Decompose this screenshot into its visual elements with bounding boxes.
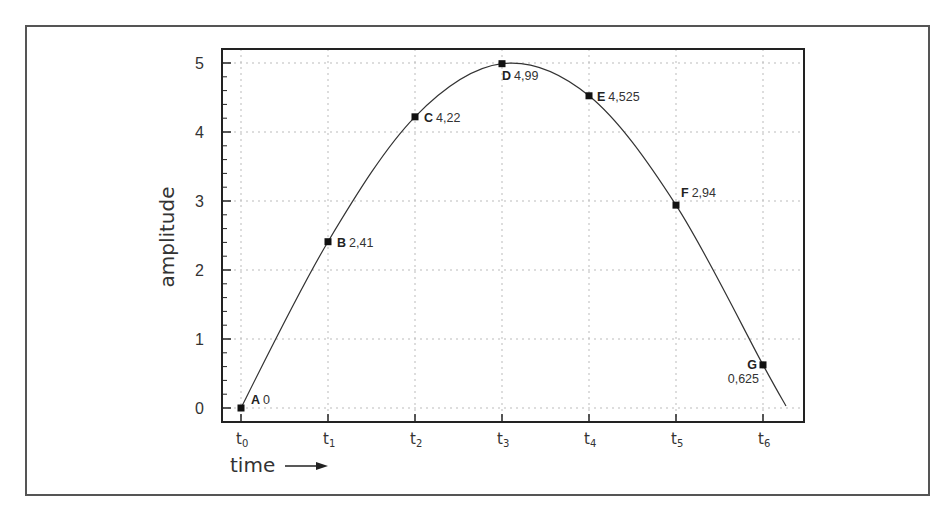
- y-axis-ticks: 012345: [195, 55, 231, 422]
- data-point-f: F2,94: [673, 186, 717, 209]
- data-point-g: G0,625: [728, 358, 767, 386]
- point-marker: [412, 113, 419, 120]
- point-label: E4,525: [597, 90, 640, 104]
- y-tick-label: 1: [195, 331, 204, 348]
- y-tick-label: 4: [195, 124, 204, 141]
- point-marker: [760, 361, 767, 368]
- plot-area-border: [222, 49, 804, 422]
- point-label: G: [747, 358, 757, 372]
- point-value: 0,625: [728, 372, 759, 386]
- point-label: B2,41: [337, 236, 373, 250]
- point-label: C4,22: [424, 111, 460, 125]
- data-point-b: B2,41: [325, 236, 374, 250]
- x-tick-label: t6: [758, 430, 770, 449]
- x-tick-label: t0: [236, 430, 248, 449]
- point-label: D4,99: [502, 69, 538, 83]
- x-tick-label: t2: [410, 430, 422, 449]
- y-axis-title: amplitude: [155, 186, 179, 287]
- point-label: A0: [251, 393, 270, 407]
- data-point-e: E4,525: [586, 90, 640, 104]
- grid-lines: [222, 49, 804, 422]
- point-label: F2,94: [681, 186, 716, 200]
- x-axis-title: time: [230, 453, 275, 477]
- y-tick-label: 2: [195, 262, 204, 279]
- x-tick-label: t4: [584, 430, 596, 449]
- point-marker: [238, 405, 245, 412]
- y-tick-label: 3: [195, 193, 204, 210]
- x-axis-ticks: t0t1t2t3t4t5t6: [236, 414, 770, 449]
- y-tick-label: 0: [195, 400, 204, 417]
- x-tick-label: t5: [671, 430, 683, 449]
- amplitude-curve: [241, 63, 786, 408]
- point-marker: [586, 92, 593, 99]
- x-tick-label: t1: [323, 430, 335, 449]
- amplitude-time-chart: 012345 t0t1t2t3t4t5t6 A0B2,41C4,22D4,99E…: [0, 0, 952, 516]
- point-marker: [499, 60, 506, 67]
- time-arrow-icon: [285, 462, 328, 470]
- y-tick-label: 5: [195, 55, 204, 72]
- point-marker: [673, 202, 680, 209]
- point-marker: [325, 238, 332, 245]
- data-point-a: A0: [238, 393, 271, 412]
- x-tick-label: t3: [497, 430, 509, 449]
